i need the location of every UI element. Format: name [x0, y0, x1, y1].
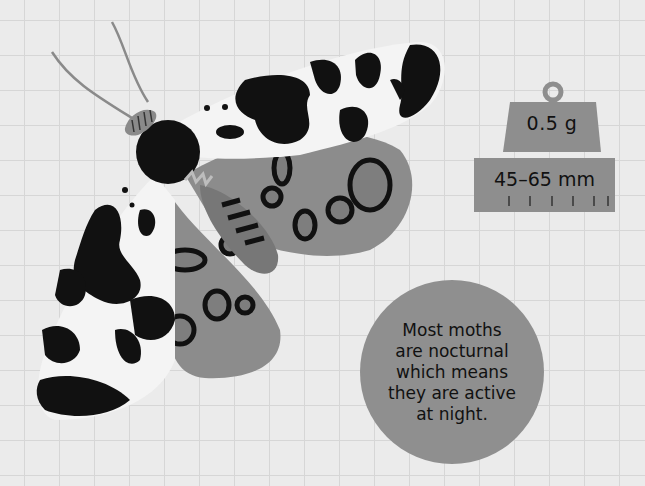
weight-badge: 0.5 g — [503, 80, 601, 152]
fact-text: Most moths are nocturnal which means the… — [367, 320, 537, 425]
ruler-ticks-icon — [474, 196, 615, 206]
size-ruler: 45–65 mm — [474, 158, 615, 212]
fact-line: which means — [367, 362, 537, 383]
weight-label: 0.5 g — [503, 112, 601, 134]
fact-line: at night. — [367, 404, 537, 425]
fact-line: they are active — [367, 383, 537, 404]
size-label: 45–65 mm — [474, 168, 615, 190]
fact-bubble: Most moths are nocturnal which means the… — [360, 280, 544, 464]
moth-infographic: 0.5 g 45–65 mm Most moths are nocturnal … — [0, 0, 645, 486]
antenna-right-icon — [112, 22, 148, 102]
moth-illustration — [0, 0, 645, 486]
fact-line: Most moths — [367, 320, 537, 341]
fact-line: are nocturnal — [367, 341, 537, 362]
antenna-left-icon — [52, 52, 132, 118]
